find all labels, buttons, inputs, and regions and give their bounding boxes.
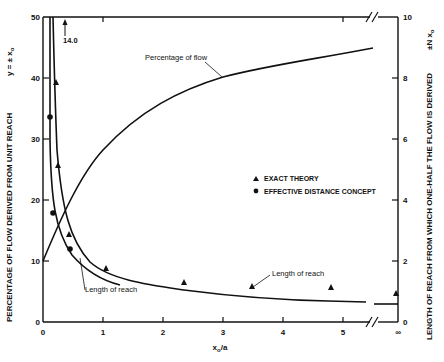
left-tick-20: 20 xyxy=(31,196,40,205)
effective-distance-curve xyxy=(50,17,120,285)
triangle-marker xyxy=(328,284,334,290)
chart: 0 1 2 3 4 5 ∞ xo/a 0 10 20 30 40 50 0 2 … xyxy=(0,0,444,362)
arrow-annotation: 14.0 xyxy=(63,19,78,45)
x-tick-0: 0 xyxy=(41,328,46,337)
left-tick-0: 0 xyxy=(36,318,41,327)
exact-theory-curve xyxy=(53,17,366,302)
circle-marker xyxy=(67,246,73,252)
left-tick-labels: 0 10 20 30 40 50 xyxy=(31,13,40,327)
x-tick-5: 5 xyxy=(341,328,346,337)
right-y-ticks xyxy=(392,78,398,261)
x-tick-1: 1 xyxy=(101,328,106,337)
right-axis-title: LENGTH OF REACH FROM WHICH ONE-HALF THE … xyxy=(425,29,435,340)
x-tick-infinity: ∞ xyxy=(395,328,401,337)
arrow-value-label: 14.0 xyxy=(63,36,78,45)
length-of-reach-label-2: Length of reach xyxy=(272,269,324,278)
right-axis-title-extra: ±N xo xyxy=(425,29,435,50)
x-tick-3: 3 xyxy=(221,328,226,337)
right-axis-title-text: LENGTH OF REACH FROM WHICH ONE-HALF THE … xyxy=(425,73,434,340)
left-tick-40: 40 xyxy=(31,74,40,83)
left-axis-title-text: PERCENTAGE OF FLOW DERIVED FROM UNIT REA… xyxy=(5,113,14,322)
x-tick-labels: 0 1 2 3 4 5 ∞ xyxy=(41,328,401,337)
circle-marker xyxy=(50,210,56,216)
right-tick-4: 4 xyxy=(403,196,408,205)
triangle-marker xyxy=(55,162,61,168)
left-y-ticks xyxy=(43,78,49,261)
legend: EXACT THEORY EFFECTIVE DISTANCE CONCEPT xyxy=(253,175,377,195)
percentage-of-flow-label: Percentage of flow xyxy=(145,53,208,62)
left-tick-30: 30 xyxy=(31,135,40,144)
legend-exact-theory: EXACT THEORY xyxy=(264,175,319,182)
legend-triangle-icon xyxy=(253,176,259,181)
length-of-reach-label-1: Length of reach xyxy=(85,285,137,294)
triangle-marker xyxy=(103,265,109,271)
x-tick-2: 2 xyxy=(161,328,166,337)
percentage-of-flow-annotation: Percentage of flow xyxy=(145,53,222,77)
left-title-sub: o xyxy=(9,47,15,51)
x-title-rest: /a xyxy=(221,343,228,352)
x-tick-4: 4 xyxy=(281,328,286,337)
circle-marker xyxy=(47,114,53,120)
right-tick-6: 6 xyxy=(403,135,408,144)
x-axis-title: xo/a xyxy=(213,343,228,353)
right-tick-10: 10 xyxy=(403,13,412,22)
axis-break-marks xyxy=(366,12,378,327)
right-tick-2: 2 xyxy=(403,257,408,266)
triangle-marker xyxy=(181,279,187,285)
length-of-reach-annotation-1: Length of reach xyxy=(80,258,137,294)
right-tick-8: 8 xyxy=(403,74,408,83)
legend-circle-icon xyxy=(254,189,259,194)
left-tick-10: 10 xyxy=(31,257,40,266)
right-tick-0: 0 xyxy=(403,318,408,327)
length-of-reach-annotation-2: Length of reach xyxy=(253,269,324,287)
right-tick-labels: 0 2 4 6 8 10 xyxy=(403,13,412,327)
right-title-sub: o xyxy=(429,29,435,33)
legend-effective-distance: EFFECTIVE DISTANCE CONCEPT xyxy=(264,188,377,195)
arrow-up-icon xyxy=(63,19,68,25)
right-title-extra: ±N x xyxy=(425,33,434,50)
left-tick-50: 50 xyxy=(31,13,40,22)
left-axis-title: PERCENTAGE OF FLOW DERIVED FROM UNIT REA… xyxy=(5,47,15,322)
left-title-extra: y = ± x xyxy=(5,51,14,76)
left-axis-title-extra: y = ± xo xyxy=(5,47,15,76)
percentage-of-flow-curve xyxy=(43,48,373,261)
